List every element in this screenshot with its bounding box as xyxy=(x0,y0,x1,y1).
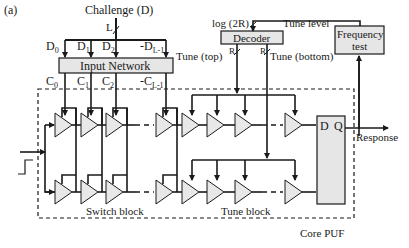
input-d2-label: D2 xyxy=(102,40,115,55)
panel-label: (a) xyxy=(4,4,17,16)
tune-block-label: Tune block xyxy=(221,206,270,217)
tune-top-label: Tune (top) xyxy=(176,51,222,62)
tune-bottom-label: Tune (bottom) xyxy=(270,51,333,62)
puf-diagram: (a) Challenge (D) L D0 D1 D2 -DL-1 Input… xyxy=(0,0,409,248)
input-dl-label: -DL-1 xyxy=(140,40,164,55)
output-cl-label: -CL-1 xyxy=(140,75,164,90)
frequency-test-label-2: test xyxy=(352,41,367,52)
decoder-label: Decoder xyxy=(233,33,270,44)
input-network-label: Input Network xyxy=(80,60,150,72)
frequency-test-label-1: Frequency xyxy=(337,29,383,40)
r-label-1: R xyxy=(229,47,235,56)
tune-level-label: Tune level xyxy=(283,18,329,29)
response-label: Response xyxy=(356,132,398,143)
output-c0-label: C0 xyxy=(46,75,58,90)
input-d0-label: D0 xyxy=(46,40,59,55)
step-input-icon xyxy=(18,160,33,174)
output-c2-label: C2 xyxy=(102,75,114,90)
log-2r-label: log (2R) xyxy=(212,18,249,29)
flip-flop-d-label: D xyxy=(320,120,329,132)
output-c1-label: C1 xyxy=(77,75,89,90)
core-puf-label: Core PUF xyxy=(300,228,344,239)
bus-width-label: L xyxy=(106,22,113,33)
r-label-2: R xyxy=(260,47,266,56)
input-d1-label: D1 xyxy=(77,40,90,55)
switch-block-label: Switch block xyxy=(86,206,144,217)
flip-flop-q-label: Q xyxy=(334,120,343,132)
challenge-label: Challenge (D) xyxy=(85,4,153,16)
